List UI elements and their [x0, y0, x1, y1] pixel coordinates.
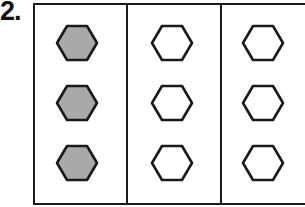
empty-hexagon-icon: [150, 84, 194, 122]
empty-hexagon-icon: [241, 144, 285, 182]
problem-number: 2.: [0, 0, 21, 27]
empty-hexagon-icon: [241, 84, 285, 122]
shaded-hexagon-icon: [55, 24, 99, 62]
empty-hexagon-icon: [150, 24, 194, 62]
empty-hexagon-icon: [150, 144, 194, 182]
shaded-hexagon-icon: [55, 84, 99, 122]
shaded-hexagon-icon: [55, 144, 99, 182]
empty-hexagon-icon: [241, 24, 285, 62]
